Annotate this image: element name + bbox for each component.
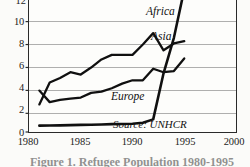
x-axis-tick-1980: 1980 [18,136,39,148]
y-axis-tick-2: 2 [4,105,24,115]
series-label-europe: Europe [111,90,144,102]
figure-caption-cropped: Figure 1. Refugee Population 1980-1995 [0,157,250,167]
y-axis-tick-6: 6 [4,61,24,71]
x-axis-tick-1990: 1990 [122,136,143,148]
figure-caption-text: Figure 1. Refugee Population 1980-1995 [30,157,234,167]
y-axis-tick-4: 4 [4,83,24,93]
x-axis-tick-1995: 1995 [175,136,196,148]
series-label-africa: Africa [146,5,175,17]
plot-area: Africa Asia Europe Source: UNHCR [28,0,237,133]
series-line-africa [39,0,184,126]
refugee-line-chart: 12 10 8 6 4 2 0 [0,0,250,167]
y-axis-tick-8: 8 [4,39,24,49]
chart-svg [29,0,236,132]
series-label-asia: Asia [151,30,171,42]
x-axis-tick-1985: 1985 [70,136,91,148]
source-attribution: Source: UNHCR [113,118,187,130]
x-axis-tick-2000: 2000 [224,136,245,148]
x-axis-labels: 1980 1985 1990 1995 2000 [0,136,250,150]
y-axis-ticks [26,0,29,132]
y-axis-tick-10: 10 [4,17,24,27]
